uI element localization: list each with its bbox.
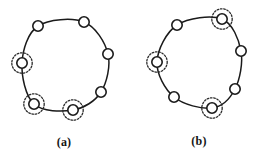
ring-node-a3[interactable]: [103, 49, 113, 59]
panel-b-caption: (b): [179, 134, 219, 149]
ring-node-a6[interactable]: [29, 99, 39, 109]
figure-container: (a) (b): [0, 0, 258, 158]
panel-b: [147, 9, 246, 118]
ring-node-b3[interactable]: [236, 46, 246, 56]
ring-node-a2[interactable]: [79, 17, 89, 27]
ring-node-a4[interactable]: [96, 87, 106, 97]
ring-node-b4[interactable]: [230, 84, 240, 94]
panel-a: [12, 17, 113, 120]
ring-node-b2[interactable]: [217, 14, 227, 24]
ring-diagram-canvas: [0, 0, 258, 158]
ring-link-path-a: [22, 19, 109, 111]
ring-node-b5[interactable]: [207, 103, 217, 113]
ring-node-b6[interactable]: [169, 92, 179, 102]
ring-node-a7[interactable]: [17, 58, 27, 68]
ring-node-a5[interactable]: [68, 105, 78, 115]
ring-node-b1[interactable]: [172, 20, 182, 30]
ring-node-b7[interactable]: [152, 57, 162, 67]
ring-node-a1[interactable]: [33, 21, 43, 31]
panel-a-caption: (a): [44, 135, 84, 150]
